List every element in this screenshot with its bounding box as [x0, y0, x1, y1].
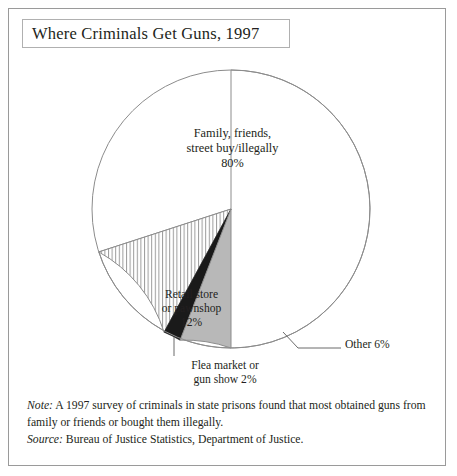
source-label: Source: [27, 433, 63, 446]
note-label: Note: [27, 399, 53, 412]
note-text: A 1997 survey of criminals in state pris… [27, 399, 426, 429]
note-line: Note: A 1997 survey of criminals in stat… [27, 398, 427, 431]
slice-label-flea: Flea market or gun show 2% [160, 359, 290, 387]
slice-label-retail: Retail store or pawnshop 12% [139, 288, 244, 330]
figure-container: Where Criminals Get Guns, 1997 [0, 0, 457, 476]
footnotes: Note: A 1997 survey of criminals in stat… [27, 398, 427, 449]
slice-label-other: Other 6% [345, 338, 425, 352]
source-line: Source: Bureau of Justice Statistics, De… [27, 432, 427, 449]
source-text: Bureau of Justice Statistics, Department… [63, 433, 304, 446]
slice-label-family: Family, friends, street buy/illegally 80… [150, 126, 315, 171]
